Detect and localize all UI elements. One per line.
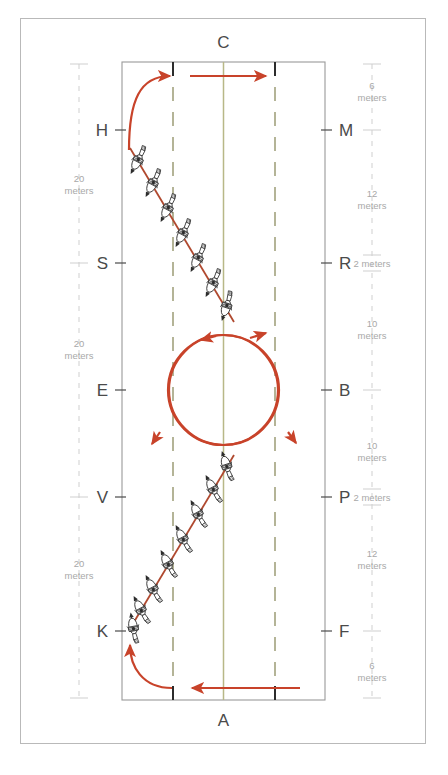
right-measure-0-value: 6 — [369, 80, 374, 91]
dressage-arena-diagram: C A H S E V K M R B P F 20 meters 20 met… — [0, 0, 448, 775]
left-measure-1-unit: meters — [64, 350, 93, 361]
diagram-page: C A H S E V K M R B P F 20 meters 20 met… — [0, 0, 448, 775]
marker-M: M — [339, 121, 353, 140]
right-measure-7-value: 6 — [369, 660, 374, 671]
right-measure-7-unit: meters — [357, 672, 386, 683]
right-measure-6-unit: meters — [357, 560, 386, 571]
left-measure-0-unit: meters — [64, 185, 93, 196]
right-measure-1-unit: meters — [357, 200, 386, 211]
right-measure-6-value: 12 — [367, 548, 378, 559]
marker-F: F — [339, 622, 349, 641]
left-measure-2-unit: meters — [64, 570, 93, 581]
marker-B: B — [339, 381, 350, 400]
right-measure-0-unit: meters — [357, 92, 386, 103]
left-dimension-rule — [70, 64, 88, 698]
right-dimension-rule — [363, 64, 381, 698]
right-measure-3-unit: meters — [357, 330, 386, 341]
marker-V: V — [97, 488, 109, 507]
marker-P: P — [339, 488, 350, 507]
arena-label-C: C — [217, 33, 229, 52]
marker-H: H — [96, 121, 108, 140]
right-measure-2-value: 2 meters — [354, 258, 391, 269]
marker-S: S — [97, 254, 108, 273]
right-measure-4-value: 10 — [367, 440, 378, 451]
left-measure-2-value: 20 — [74, 558, 85, 569]
right-measure-5-value: 2 meters — [354, 492, 391, 503]
arena-label-A: A — [218, 711, 230, 730]
right-measure-4-unit: meters — [357, 452, 386, 463]
left-measure-1-value: 20 — [74, 338, 85, 349]
right-measure-1-value: 12 — [367, 188, 378, 199]
right-measure-3-value: 10 — [367, 318, 378, 329]
left-measure-0-value: 20 — [74, 173, 85, 184]
marker-E: E — [97, 381, 108, 400]
marker-K: K — [97, 622, 109, 641]
marker-R: R — [339, 254, 351, 273]
